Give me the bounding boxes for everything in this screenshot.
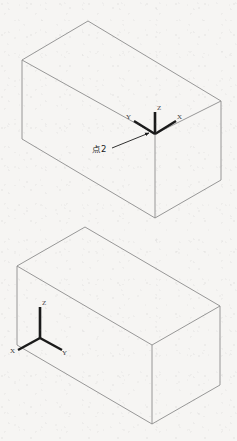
axis-x-line-upper: [155, 121, 176, 134]
axis-x-label-upper: X: [177, 113, 182, 121]
upper-box-bottom-face-edges: [22, 139, 221, 218]
axis-y-label-upper: Y: [126, 113, 131, 121]
lower-box[interactable]: [17, 227, 220, 424]
triad-lower[interactable]: Z X Y: [10, 299, 67, 357]
lower-box-bottom-face-edges: [17, 345, 220, 424]
axis-y-label-lower: Y: [62, 349, 67, 357]
lower-box-top-face-edges: [17, 227, 220, 345]
point2-leader-line: [112, 133, 149, 148]
triad-upper[interactable]: Z Y X: [126, 104, 182, 134]
axis-y-line-lower: [40, 338, 62, 350]
point2-label: 点2: [92, 144, 106, 154]
cad-drawing-canvas[interactable]: Z Y X 点2 Z X Y: [0, 0, 237, 441]
upper-box[interactable]: [22, 21, 221, 218]
axis-z-label-lower: Z: [42, 299, 46, 307]
axis-z-label-upper: Z: [157, 104, 161, 112]
upper-box-top-face-edges: [22, 21, 221, 134]
axis-x-label-lower: X: [10, 347, 15, 355]
axis-x-line-lower: [18, 338, 40, 350]
annotation-point2[interactable]: 点2: [92, 133, 149, 154]
cad-viewport: Z Y X 点2 Z X Y: [0, 0, 237, 441]
axis-y-line-upper: [134, 121, 155, 134]
